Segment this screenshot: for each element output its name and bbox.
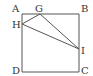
segment-gi: [40, 14, 79, 49]
triangle-ghi: [22, 14, 79, 49]
segment-hi: [22, 24, 79, 49]
label-a: A: [11, 3, 20, 14]
geometry-diagram: A G B H I D C: [0, 0, 93, 76]
label-h: H: [12, 19, 21, 30]
label-d: D: [12, 65, 20, 76]
square-abcd: [22, 14, 79, 72]
label-c: C: [81, 65, 89, 76]
label-i: I: [81, 45, 85, 56]
label-b: B: [81, 3, 88, 14]
segment-gh: [22, 14, 40, 24]
label-g: G: [35, 3, 43, 14]
